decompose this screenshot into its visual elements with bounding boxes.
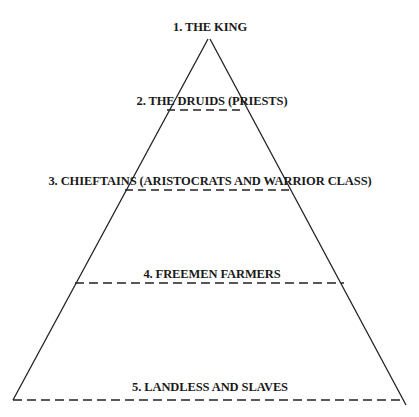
level-label-druids: 2. THE DRUIDS (PRIESTS) (137, 94, 288, 109)
level-label-chieftains: 3. CHIEFTAINS (ARISTOCRATS AND WARRIOR C… (48, 174, 371, 189)
pyramid-outline (0, 0, 419, 417)
level-label-landless: 5. LANDLESS AND SLAVES (132, 380, 288, 395)
social-pyramid-diagram: 1. THE KING 2. THE DRUIDS (PRIESTS) 3. C… (0, 0, 419, 417)
level-label-freemen: 4. FREEMEN FARMERS (143, 267, 280, 282)
level-label-king: 1. THE KING (173, 20, 247, 35)
